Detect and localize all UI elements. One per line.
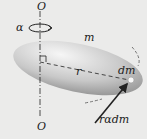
mass-element: [128, 77, 134, 83]
axis-label-top: O: [37, 1, 46, 12]
element-label: dm: [118, 65, 135, 76]
path-arc-bottom: [85, 99, 102, 103]
force-label: rαdm: [99, 114, 129, 125]
radius-label: r: [76, 66, 81, 77]
axis-label-bottom: O: [37, 121, 46, 132]
alpha-label: α: [16, 22, 23, 33]
mass-label: m: [84, 32, 94, 43]
